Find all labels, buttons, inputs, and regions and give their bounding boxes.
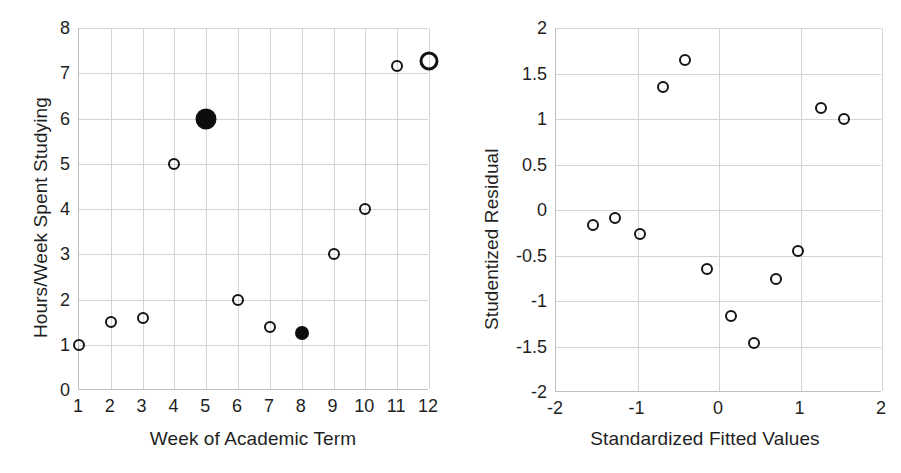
x-tick-label: 9 xyxy=(328,396,338,417)
panel-scatter-hours-vs-week: Hours/Week Spent Studying Week of Academ… xyxy=(0,0,455,473)
y-tick-label: -1 xyxy=(503,291,547,312)
y-tick-label: 0 xyxy=(503,200,547,221)
y-tick-label: -2 xyxy=(503,382,547,403)
data-point-marker xyxy=(196,108,217,129)
y-tick-label: -0.5 xyxy=(503,245,547,266)
x-tick-label: 3 xyxy=(137,396,147,417)
x-tick-label: 7 xyxy=(264,396,274,417)
x-tick-label: 10 xyxy=(354,396,374,417)
x-tick-label: 2 xyxy=(105,396,115,417)
y-tick-label: 2 xyxy=(26,289,70,310)
y-tick-label: 3 xyxy=(26,244,70,265)
data-point-marker xyxy=(609,212,621,224)
plot-area-left xyxy=(78,28,428,390)
gridline-vertical xyxy=(882,28,883,391)
y-tick-label: 6 xyxy=(26,108,70,129)
gridline-horizontal xyxy=(556,165,881,166)
data-point-marker xyxy=(725,310,737,322)
plot-area-right xyxy=(555,28,881,392)
x-tick-label: 0 xyxy=(713,398,723,419)
data-point-marker xyxy=(391,60,403,72)
data-point-marker xyxy=(328,248,340,260)
y-tick-label: 0 xyxy=(26,380,70,401)
x-tick-label: 4 xyxy=(168,396,178,417)
data-point-marker xyxy=(838,113,850,125)
panel-residual-plot: Studentized Residual Standardized Fitted… xyxy=(455,0,901,473)
data-point-marker xyxy=(634,228,646,240)
x-tick-label: 5 xyxy=(200,396,210,417)
y-tick-label: 0.5 xyxy=(503,154,547,175)
gridline-horizontal xyxy=(79,164,428,165)
gridline-horizontal xyxy=(79,345,428,346)
data-point-marker xyxy=(359,203,371,215)
y-tick-label: 8 xyxy=(26,18,70,39)
y-tick-label: 1 xyxy=(26,334,70,355)
gridline-horizontal xyxy=(79,28,428,29)
data-point-marker xyxy=(815,102,827,114)
gridline-horizontal xyxy=(556,347,881,348)
x-tick-label: 2 xyxy=(876,398,886,419)
figure-two-panel-scatter: Hours/Week Spent Studying Week of Academ… xyxy=(0,0,901,473)
gridline-horizontal xyxy=(79,300,428,301)
x-tick-label: 1 xyxy=(794,398,804,419)
gridline-vertical xyxy=(429,28,430,389)
gridline-horizontal xyxy=(79,209,428,210)
y-tick-label: 4 xyxy=(26,199,70,220)
y-tick-label: 1.5 xyxy=(503,63,547,84)
gridline-horizontal xyxy=(556,74,881,75)
gridline-horizontal xyxy=(556,256,881,257)
x-tick-label: -1 xyxy=(628,398,644,419)
x-axis-title-right: Standardized Fitted Values xyxy=(515,428,895,450)
x-axis-title-left: Week of Academic Term xyxy=(55,428,451,450)
gridline-horizontal xyxy=(556,301,881,302)
gridline-horizontal xyxy=(556,28,881,29)
x-tick-label: 8 xyxy=(296,396,306,417)
x-tick-label: 6 xyxy=(232,396,242,417)
y-tick-label: 5 xyxy=(26,153,70,174)
data-point-marker xyxy=(295,326,309,340)
gridline-horizontal xyxy=(556,119,881,120)
data-point-marker xyxy=(701,263,713,275)
gridline-horizontal xyxy=(79,119,428,120)
x-tick-label: 12 xyxy=(418,396,438,417)
data-point-marker xyxy=(264,321,276,333)
data-point-marker xyxy=(105,316,117,328)
gridline-horizontal xyxy=(556,210,881,211)
data-point-marker xyxy=(420,52,439,71)
data-point-marker xyxy=(137,312,149,324)
data-point-marker xyxy=(232,294,244,306)
x-tick-label: 1 xyxy=(73,396,83,417)
y-tick-label: 7 xyxy=(26,63,70,84)
data-point-marker xyxy=(748,337,760,349)
y-tick-label: -1.5 xyxy=(503,336,547,357)
data-point-marker xyxy=(657,81,669,93)
data-point-marker xyxy=(770,273,782,285)
data-point-marker xyxy=(792,245,804,257)
y-tick-label: 1 xyxy=(503,109,547,130)
data-point-marker xyxy=(679,54,691,66)
x-tick-label: -2 xyxy=(547,398,563,419)
gridline-horizontal xyxy=(79,73,428,74)
data-point-marker xyxy=(587,219,599,231)
gridline-horizontal xyxy=(79,254,428,255)
y-tick-label: 2 xyxy=(503,18,547,39)
data-point-marker xyxy=(168,158,180,170)
y-axis-title-right: Studentized Residual xyxy=(481,148,503,330)
x-tick-label: 11 xyxy=(387,396,406,417)
data-point-marker xyxy=(73,339,85,351)
